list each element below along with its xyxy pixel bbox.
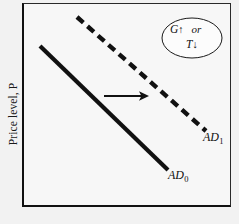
down-arrow-icon: ↓: [192, 39, 197, 50]
curve-ad0: [40, 46, 168, 170]
up-arrow-icon: ↑: [178, 24, 183, 35]
curves-layer: [0, 0, 239, 224]
callout-connector: or: [192, 23, 202, 35]
curve-label-ad1-subscript: 1: [219, 136, 223, 146]
curve-label-ad1-text: AD: [203, 130, 219, 144]
curve-label-ad0: AD0: [168, 168, 188, 183]
curve-label-ad0-text: AD: [168, 168, 184, 182]
rightward-shift-arrow: [104, 91, 149, 101]
callout-line-two: T↓: [186, 38, 198, 50]
ad-shift-figure: Price level, P AD1 AD0 G↑or T↓: [0, 0, 239, 224]
curve-label-ad0-subscript: 0: [184, 174, 188, 184]
callout-line-one: G↑or: [170, 23, 201, 35]
y-axis-label: Price level, P: [7, 54, 19, 174]
curve-label-ad1: AD1: [203, 130, 223, 145]
